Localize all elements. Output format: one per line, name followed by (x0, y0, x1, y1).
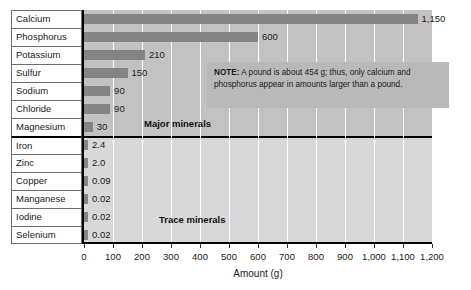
bar-sulfur (84, 68, 128, 78)
x-tick-label: 1,100 (391, 251, 415, 262)
x-tick-label: 300 (163, 251, 179, 262)
bar-potassium (84, 50, 145, 60)
category-label-selenium: Selenium (11, 226, 82, 244)
x-tick-label: 700 (279, 251, 295, 262)
x-tick-label: 200 (134, 251, 150, 262)
note-annotation: NOTE: A pound is about 454 g; thus, only… (207, 62, 449, 108)
bar-row: 2.4 (84, 136, 432, 154)
category-label-sodium: Sodium (11, 82, 82, 100)
bar-value-label: 2.0 (92, 156, 105, 169)
bar-iron (84, 140, 88, 150)
bar-value-label: 600 (262, 30, 278, 43)
x-tick-label: 400 (192, 251, 208, 262)
note-prefix: NOTE: (214, 68, 239, 77)
note-body: A pound is about 454 g; thus, only calci… (214, 68, 411, 89)
category-label-iodine: Iodine (11, 208, 82, 226)
x-tick-label: 900 (337, 251, 353, 262)
bar-chloride (84, 104, 110, 114)
bar-row: 30 (84, 118, 432, 136)
bar-value-label: 0.02 (92, 192, 111, 205)
bar-iodine (84, 212, 88, 222)
bar-value-label: 210 (149, 48, 165, 61)
x-tick (113, 244, 114, 248)
bar-row: 0.02 (84, 190, 432, 208)
x-tick-label: 1,200 (420, 251, 444, 262)
bar-row: 2.0 (84, 154, 432, 172)
bar-value-label: 90 (114, 84, 125, 97)
bar-phosphorus (84, 32, 258, 42)
category-label-magnesium: Magnesium (11, 118, 82, 136)
bar-value-label: 90 (114, 102, 125, 115)
x-tick (374, 244, 375, 248)
category-label-iron: Iron (11, 136, 82, 154)
x-tick-label: 1,000 (362, 251, 386, 262)
x-tick-label: 100 (105, 251, 121, 262)
category-label-copper: Copper (11, 172, 82, 190)
x-tick-label: 0 (81, 251, 86, 262)
bar-value-label: 0.02 (92, 228, 111, 241)
bar-value-label: 0.09 (92, 174, 111, 187)
bar-manganese (84, 194, 88, 204)
x-tick (200, 244, 201, 248)
gridline (432, 10, 433, 244)
category-label-phosphorus: Phosphorus (11, 28, 82, 46)
mineral-amount-bar-chart: CalciumPhosphorusPotassiumSulfurSodiumCh… (0, 0, 471, 290)
bar-row: 0.02 (84, 208, 432, 226)
group-caption-major: Major minerals (144, 118, 211, 129)
x-tick-label: 500 (221, 251, 237, 262)
x-tick (316, 244, 317, 248)
bar-value-label: 30 (97, 120, 108, 133)
bar-copper (84, 176, 88, 186)
group-caption-trace: Trace minerals (159, 214, 226, 225)
bar-value-label: 1,150 (422, 12, 446, 25)
plot-area: 1,1506002101509090302.42.00.090.020.020.… (82, 10, 432, 244)
bar-value-label: 0.02 (92, 210, 111, 223)
category-label-calcium: Calcium (11, 10, 82, 28)
x-tick (345, 244, 346, 248)
x-tick-label: 600 (250, 251, 266, 262)
x-tick (287, 244, 288, 248)
x-tick (432, 244, 433, 248)
x-tick (403, 244, 404, 248)
bar-row: 0.09 (84, 172, 432, 190)
bar-magnesium (84, 122, 93, 132)
x-tick (142, 244, 143, 248)
x-tick-label: 800 (308, 251, 324, 262)
category-label-column: CalciumPhosphorusPotassiumSulfurSodiumCh… (11, 10, 82, 244)
bar-value-label: 150 (132, 66, 148, 79)
category-label-potassium: Potassium (11, 46, 82, 64)
bar-sodium (84, 86, 110, 96)
category-label-zinc: Zinc (11, 154, 82, 172)
x-tick (229, 244, 230, 248)
bar-selenium (84, 230, 88, 240)
bar-calcium (84, 14, 418, 24)
x-axis-title: Amount (g) (84, 268, 432, 279)
category-label-chloride: Chloride (11, 100, 82, 118)
bar-row: 1,150 (84, 10, 432, 28)
x-tick (171, 244, 172, 248)
x-tick (84, 244, 85, 248)
category-label-manganese: Manganese (11, 190, 82, 208)
bar-value-label: 2.4 (92, 138, 105, 151)
category-label-sulfur: Sulfur (11, 64, 82, 82)
x-tick (258, 244, 259, 248)
bar-row: 600 (84, 28, 432, 46)
bar-zinc (84, 158, 88, 168)
